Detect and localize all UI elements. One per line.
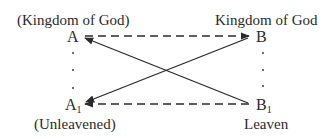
node-a: A <box>67 29 79 45</box>
node-a1: A1 <box>65 97 82 113</box>
dotted-column-right <box>262 52 264 87</box>
dotted-column-left <box>72 52 74 89</box>
label-unleavened: (Unleavened) <box>34 117 116 132</box>
node-b1-base: B <box>256 96 267 113</box>
label-kingdom-of-god: Kingdom of God <box>215 13 318 28</box>
label-leaven: Leaven <box>244 117 288 132</box>
node-b: B <box>256 29 267 45</box>
label-kingdom-of-god-parenthetical: (Kingdom of God) <box>17 13 130 28</box>
node-b1-subscript: 1 <box>267 104 272 115</box>
node-b1: B1 <box>256 97 272 113</box>
node-a1-subscript: 1 <box>77 104 82 115</box>
node-a1-base: A <box>65 96 77 113</box>
